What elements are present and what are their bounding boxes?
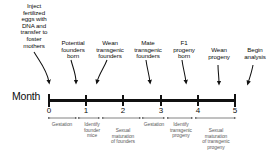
arrow-to-month-3 xyxy=(182,60,186,82)
event-label-f1-progeny-born: F1 progeny born xyxy=(166,40,202,60)
axis-tick-4 xyxy=(197,95,199,106)
event-label-potential-founders-born: Potential founders born xyxy=(53,40,93,60)
arrow-to-month-5 xyxy=(248,65,253,83)
axis-tick-label-5: 5 xyxy=(228,106,242,115)
axis-tick-2 xyxy=(122,95,124,106)
axis-tick-label-0: 0 xyxy=(42,106,56,115)
event-label-inject-eggs: Inject fertilized eggs with DNA and tran… xyxy=(12,3,56,49)
interval-label-sexual-maturation-progeny: Sexual maturation of transgenic progeny xyxy=(192,128,240,150)
event-label-wean-progeny: Wean progeny xyxy=(201,47,237,60)
axis-tick-label-4: 4 xyxy=(191,106,205,115)
interval-label-sexual-maturation-founders: Sexual maturation of founders xyxy=(103,128,143,145)
arrow-to-month-0 xyxy=(34,52,49,82)
interval-label-identify-founder-mice: Identify founder mice xyxy=(78,122,106,139)
arrow-to-month-2 xyxy=(146,60,150,82)
arrow-to-month-1 xyxy=(71,60,76,82)
arrow-to-month-1-5 xyxy=(97,60,107,82)
axis-title-month: Month xyxy=(12,90,40,102)
event-label-mate-transgenic-founders: Mate transgenic founders xyxy=(126,40,170,60)
axis-tick-3 xyxy=(160,95,162,106)
timeline-axis xyxy=(49,99,236,102)
axis-tick-label-1: 1 xyxy=(79,106,93,115)
transgenic-mouse-timeline-figure: Inject fertilized eggs with DNA and tran… xyxy=(0,0,280,164)
event-label-begin-analysis: Begin analysis xyxy=(237,47,273,60)
arrow-to-month-4 xyxy=(218,65,219,83)
axis-tick-label-3: 3 xyxy=(154,106,168,115)
axis-tick-1 xyxy=(85,95,87,106)
axis-tick-label-2: 2 xyxy=(116,106,130,115)
